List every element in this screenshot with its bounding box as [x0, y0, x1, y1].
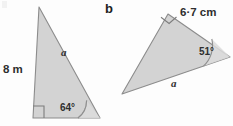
triangle-b-angle-label: 51° [199, 47, 214, 57]
triangle-a-side-length-label: 8 m [3, 64, 23, 76]
triangle-a-hypotenuse-label: a [61, 47, 67, 58]
clipped-edge-artifact [2, 1, 7, 8]
triangle-b-long-side-label: a [171, 78, 177, 89]
figure-canvas: b 8 m a 64° 6·7 cm 51° a [0, 0, 233, 126]
part-label-b: b [105, 2, 113, 15]
triangle-a-angle-label: 64° [60, 103, 75, 113]
triangle-b-side-length-label: 6·7 cm [180, 7, 216, 19]
geometry-figure [0, 0, 233, 126]
